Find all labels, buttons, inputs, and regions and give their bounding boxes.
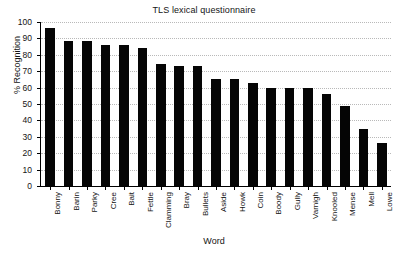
bar (64, 41, 74, 186)
x-axis-tick (179, 186, 180, 190)
bar (174, 66, 184, 186)
x-axis-tick-label: Mense (348, 168, 357, 192)
y-axis-tick-label: 80 (23, 50, 32, 60)
x-axis-tick-label: Bonny (53, 169, 62, 192)
x-axis-tick (327, 186, 328, 190)
x-axis-tick-label: Boody (274, 169, 283, 192)
x-axis-tick-label: Cree (109, 175, 118, 192)
x-axis-tick-label-text: Mense (348, 192, 357, 216)
x-axis-tick-label-text: Lowe (385, 192, 394, 211)
x-axis-tick-label: Howk (238, 172, 247, 192)
x-axis-tick-label: Gully (293, 174, 302, 192)
y-axis-tick-label: 100 (18, 17, 32, 27)
x-axis-tick-label-text: Knooled (330, 192, 339, 221)
x-axis-tick-label-text: Bait (127, 192, 136, 206)
y-axis-tick-label: 10 (23, 165, 32, 175)
x-axis-tick-label: Clamming (164, 156, 173, 192)
y-axis-tick-label: 50 (23, 99, 32, 109)
y-axis-tick-label: 0 (27, 181, 32, 191)
x-axis-tick (271, 186, 272, 190)
x-axis-tick-label-text: Gully (293, 192, 302, 210)
x-axis-tick (69, 186, 70, 190)
x-axis-tick (87, 186, 88, 190)
x-axis-tick-label-text: Coin (256, 192, 265, 208)
bar (230, 79, 240, 186)
x-axis-tick-label: Aside (219, 172, 228, 192)
x-axis-tick (308, 186, 309, 190)
x-axis-tick-label-text: Bray (182, 192, 191, 208)
x-axis-tick-label: Bullets (201, 168, 210, 192)
bar (45, 28, 55, 186)
x-axis-tick-label: Lowe (385, 173, 394, 192)
x-axis-tick (382, 186, 383, 190)
x-axis-tick-label: Bray (182, 176, 191, 192)
x-axis-tick-label-text: Mell (367, 192, 376, 207)
x-axis-tick (234, 186, 235, 190)
x-axis-tick (363, 186, 364, 190)
bar (211, 79, 221, 186)
bar (101, 45, 111, 186)
x-axis-tick-label-text: Parky (90, 192, 99, 212)
y-axis-tick-label: 20 (23, 148, 32, 158)
x-axis-tick-label: Varnigh (311, 165, 320, 192)
x-axis-tick-label-text: Bullets (201, 192, 210, 216)
chart-title: TLS lexical questionnaire (0, 5, 408, 15)
x-axis-tick (161, 186, 162, 190)
x-axis-tick-label: Mell (367, 177, 376, 192)
x-axis-tick-label: Parky (90, 172, 99, 192)
x-axis-tick (50, 186, 51, 190)
bar (82, 41, 92, 186)
y-axis-tick-label: 90 (23, 33, 32, 43)
x-axis-tick-label: Bait (127, 178, 136, 192)
x-axis-tick (105, 186, 106, 190)
bar (248, 83, 258, 186)
bar (138, 48, 148, 186)
x-axis-tick (124, 186, 125, 190)
plot-area: 0102030405060708090100 BonnyBarinParkyCr… (40, 22, 391, 187)
y-axis-label: % Recognition (12, 15, 22, 115)
x-axis-tick-label: Fettle (146, 172, 155, 192)
y-axis-tick-label: 30 (23, 132, 32, 142)
bar (119, 45, 129, 186)
x-axis-tick (290, 186, 291, 190)
bar-series (41, 22, 391, 186)
x-axis-tick (345, 186, 346, 190)
x-axis-tick-label-text: Varnigh (311, 192, 320, 219)
y-axis-tick-label: 60 (23, 83, 32, 93)
x-axis-tick-label-text: Boody (274, 192, 283, 215)
x-axis-tick-label-text: Howk (238, 192, 247, 212)
y-axis-tick-label: 70 (23, 66, 32, 76)
x-axis-tick-label-text: Barin (72, 192, 81, 211)
y-axis-tick-label: 40 (23, 115, 32, 125)
x-axis-tick-label-text: Bonny (53, 192, 62, 215)
x-axis-tick (216, 186, 217, 190)
chart-figure: TLS lexical questionnaire % Recognition … (0, 0, 408, 258)
x-axis-tick-label: Barin (72, 173, 81, 192)
x-axis-tick (142, 186, 143, 190)
x-axis-tick-label: Knooled (330, 163, 339, 192)
x-axis-tick-label-text: Fettle (146, 192, 155, 212)
x-axis-tick-label-text: Clamming (164, 192, 173, 228)
y-axis-tick: 0 (37, 186, 41, 187)
x-axis-label: Word (38, 236, 390, 246)
x-axis-tick-label-text: Aside (219, 192, 228, 212)
x-axis-tick (253, 186, 254, 190)
x-axis-tick-label: Coin (256, 176, 265, 192)
bar (285, 88, 295, 186)
x-axis-tick-label-text: Cree (109, 192, 118, 209)
x-axis-tick (198, 186, 199, 190)
